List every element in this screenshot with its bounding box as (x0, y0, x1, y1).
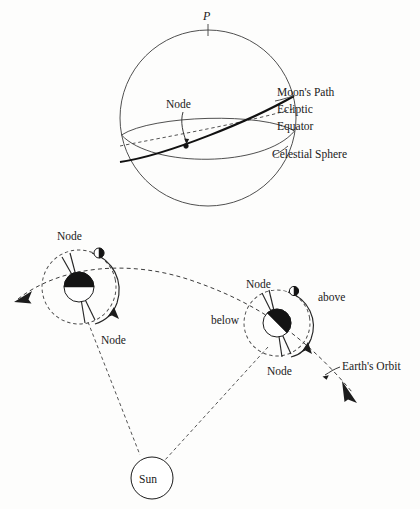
left-node-label-lower: Node (101, 334, 126, 346)
celestial-sphere-label: Celestial Sphere (272, 148, 347, 161)
right-earth-moon-system: Node Node above below Earth's Orbit (165, 278, 401, 460)
ecliptic-curve (120, 108, 296, 146)
right-node-line-to-sun (165, 347, 268, 460)
earths-orbit-label: Earth's Orbit (342, 360, 401, 372)
left-earth-moon-system: Node Node (35, 230, 140, 455)
orbit-arrowhead-right (342, 381, 357, 403)
figure-container: P Node Moon's Path Ecliptic Equator Cele… (0, 0, 420, 509)
sun-group: Sun (131, 457, 173, 499)
node-leader-line-top (182, 112, 187, 142)
right-node-label-lower: Node (267, 365, 292, 377)
sun-label: Sun (139, 473, 157, 485)
node-marker-top (184, 144, 189, 149)
node-label-top: Node (166, 98, 191, 110)
ecliptic-label: Ecliptic (277, 103, 313, 116)
orbit-arrowhead-left (14, 291, 32, 304)
equator-curve-back (122, 118, 295, 135)
left-moon-shadow (99, 248, 104, 258)
earths-orbit-leader-arrowhead (323, 375, 329, 380)
above-label: above (318, 291, 345, 303)
equator-label: Equator (277, 120, 314, 133)
celestial-sphere-group: P Node Moon's Path Ecliptic Equator Cele… (120, 9, 347, 206)
moons-path-label: Moon's Path (277, 86, 335, 98)
right-node-label-upper: Node (246, 278, 271, 290)
left-earth-shadow (64, 272, 94, 287)
pole-label: P (202, 9, 211, 23)
earth-moon-sun-group: Node Node (14, 230, 401, 499)
earths-orbit-leader (325, 367, 340, 375)
left-moon-orbit-arrow (108, 307, 120, 319)
below-label: below (211, 314, 240, 326)
left-node-label-upper: Node (57, 230, 82, 242)
